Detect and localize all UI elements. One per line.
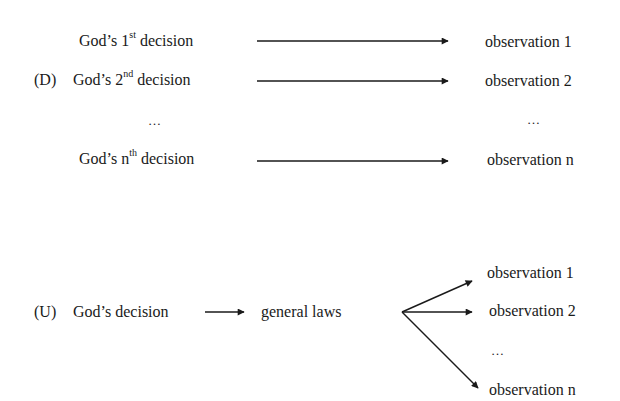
arrows-layer: [0, 0, 620, 401]
u-fan-arrow-n-icon: [402, 312, 478, 388]
diagram-canvas: God’s 1st decision observation 1 (D) God…: [0, 0, 620, 401]
u-fan-arrow-1-icon: [402, 281, 472, 312]
